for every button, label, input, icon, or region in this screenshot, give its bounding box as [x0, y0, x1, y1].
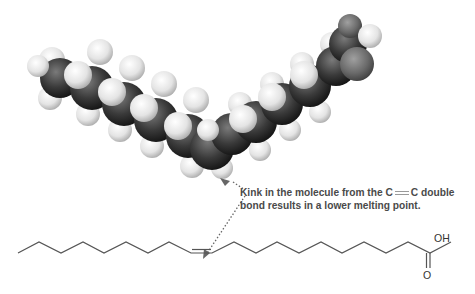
annotation-text: C double	[411, 187, 455, 198]
double-bond-icon	[395, 191, 409, 195]
annotation-text: Kink in the molecule from the C	[240, 187, 393, 198]
carbonyl-oxygen-label: O	[423, 269, 431, 281]
skeletal-formula	[18, 242, 451, 268]
hydroxyl-label: OH	[434, 232, 450, 244]
fatty-acid-diagram: Kink in the molecule from the CC double …	[0, 0, 475, 294]
annotation-text: bond results in a lower melting point.	[240, 200, 421, 211]
space-filling-model	[27, 14, 382, 179]
kink-annotation: Kink in the molecule from the CC double …	[240, 186, 475, 212]
